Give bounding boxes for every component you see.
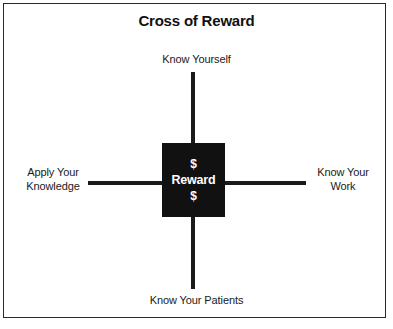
arm-label-left: Apply Your Knowledge	[20, 165, 86, 193]
cross-of-reward-figure: Cross of Reward $ Reward $ Know Yourself…	[0, 0, 393, 329]
figure-title: Cross of Reward	[0, 12, 393, 29]
cross-arm-left	[88, 181, 166, 185]
dollar-sign-icon-top: $	[190, 157, 197, 172]
dollar-sign-icon-bottom: $	[190, 189, 197, 204]
cross-arm-right	[221, 181, 306, 185]
center-reward-label: Reward	[172, 172, 216, 189]
arm-label-right-line1: Know Your	[308, 165, 378, 179]
arm-label-left-line2: Knowledge	[20, 179, 86, 193]
arm-label-bottom: Know Your Patients	[0, 293, 393, 307]
arm-label-right: Know Your Work	[308, 165, 378, 193]
cross-arm-bottom	[191, 214, 195, 289]
arm-label-left-line1: Apply Your	[20, 165, 86, 179]
cross-arm-top	[191, 72, 195, 146]
arm-label-top: Know Yourself	[0, 52, 393, 66]
center-reward-box: $ Reward $	[162, 143, 225, 217]
arm-label-right-line2: Work	[308, 179, 378, 193]
